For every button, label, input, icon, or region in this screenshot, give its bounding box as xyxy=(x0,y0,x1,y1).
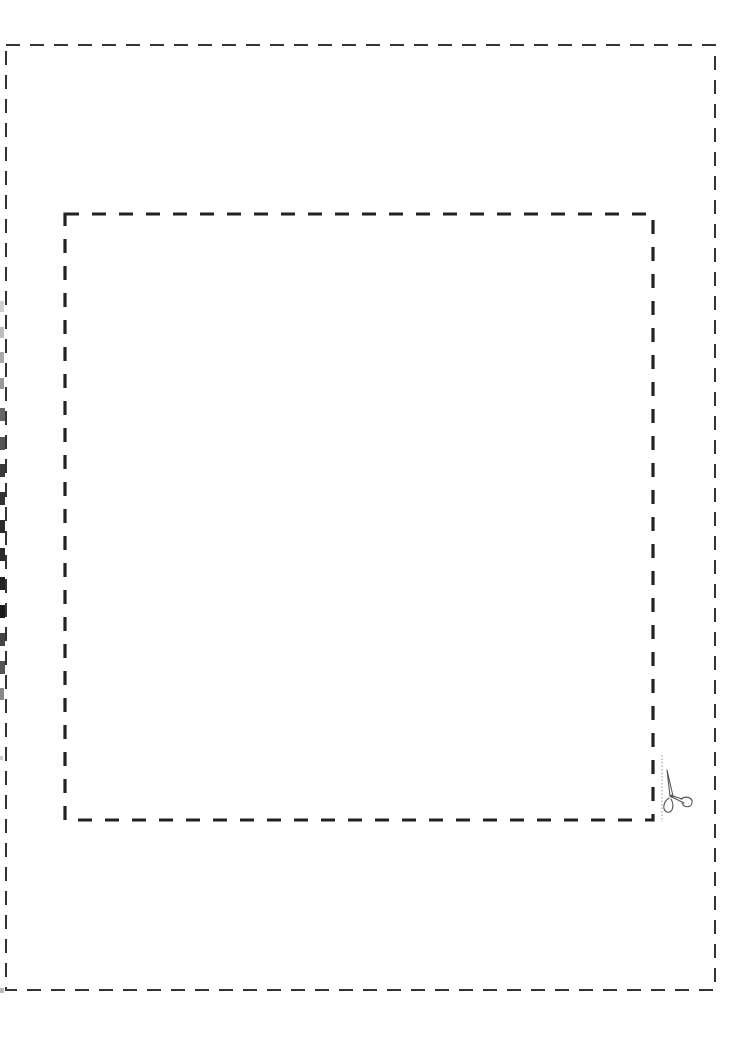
template-page xyxy=(0,0,756,1052)
scissors-icon xyxy=(664,770,692,812)
outer-dashed-border xyxy=(6,45,715,990)
inner-cut-box xyxy=(65,214,653,820)
left-edge-marks xyxy=(0,301,5,993)
cutout-canvas xyxy=(0,0,756,1052)
